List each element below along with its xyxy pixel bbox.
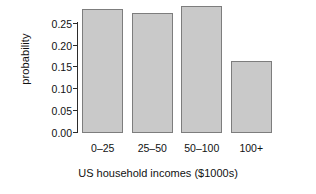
y-tick-mark-5 bbox=[73, 23, 77, 24]
y-tick-label-2: 0.10 bbox=[52, 84, 72, 94]
y-tick-mark-1 bbox=[73, 110, 77, 111]
y-tick-mark-3 bbox=[73, 66, 77, 67]
y-tick-label-4: 0.20 bbox=[52, 41, 72, 51]
y-axis-title: probability bbox=[19, 0, 31, 119]
y-axis-tick-labels: 0.00 0.05 0.10 0.15 0.20 0.25 bbox=[34, 0, 72, 194]
bar-3 bbox=[231, 61, 272, 133]
x-tick-label-3: 100+ bbox=[219, 142, 284, 154]
x-axis-title: US household incomes ($1000s) bbox=[0, 167, 316, 179]
y-tick-mark-4 bbox=[73, 45, 77, 46]
y-tick-label-0: 0.00 bbox=[52, 128, 72, 138]
bar-2 bbox=[181, 6, 222, 133]
bar-chart: probability 0.00 0.05 0.10 0.15 0.20 0.2… bbox=[0, 0, 316, 194]
bar-0 bbox=[82, 9, 123, 133]
bar-1 bbox=[132, 13, 173, 133]
y-tick-mark-2 bbox=[73, 88, 77, 89]
y-tick-mark-0 bbox=[73, 132, 77, 133]
y-tick-label-3: 0.15 bbox=[52, 62, 72, 72]
plot-area bbox=[78, 0, 276, 133]
y-tick-label-1: 0.05 bbox=[52, 106, 72, 116]
y-tick-label-5: 0.25 bbox=[52, 19, 72, 29]
